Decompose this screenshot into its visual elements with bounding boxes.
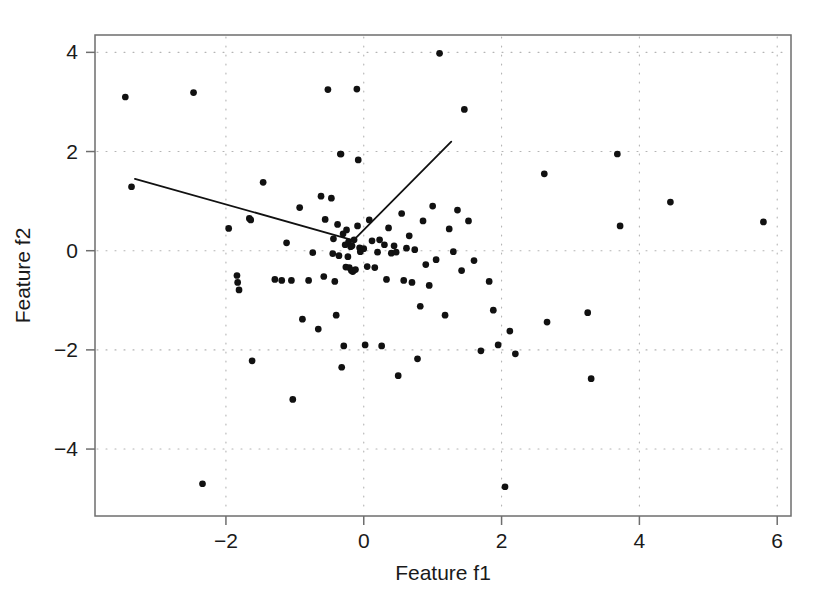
data-point [343,227,350,234]
data-point [371,264,378,271]
data-point [122,94,129,101]
data-point [330,235,337,242]
data-point [433,256,440,263]
data-point [512,350,519,357]
data-point [328,195,335,202]
data-point [442,312,449,319]
data-point [383,276,390,283]
data-point [471,257,478,264]
data-point [305,277,312,284]
data-point [461,106,468,113]
data-point [446,226,453,233]
data-point [329,250,336,257]
data-point [378,343,385,350]
scatter-plot-figure: −20246−4−2024Feature f1Feature f2 [0,0,825,608]
data-point [340,343,347,350]
data-point [478,348,485,355]
figure-background [0,0,825,608]
data-point [409,279,416,286]
data-point [331,278,338,285]
data-point [429,203,436,210]
data-point [225,225,232,232]
data-point [417,303,424,310]
data-point [450,248,457,255]
x-tick-label: 6 [771,529,783,552]
data-point [614,151,621,158]
data-point [234,272,241,279]
data-point [360,245,367,252]
data-point [289,396,296,403]
data-point [374,249,381,256]
data-point [584,309,591,316]
data-point [426,282,433,289]
data-point [322,216,329,223]
x-tick-label: 0 [358,529,370,552]
data-point [422,261,429,268]
data-point [395,372,402,379]
data-point [393,249,400,256]
data-point [403,245,410,252]
data-point [364,263,371,270]
data-point [454,207,461,214]
data-point [338,151,345,158]
x-tick-label: 4 [634,529,646,552]
data-point [247,217,254,224]
data-point [288,277,295,284]
data-point [362,342,369,349]
data-point [334,221,341,228]
data-point [541,170,548,177]
data-point [128,183,135,190]
data-point [354,223,361,230]
data-point [411,246,418,253]
data-point [199,480,206,487]
data-point [345,253,352,260]
data-point [588,375,595,382]
data-point [296,204,303,211]
data-point [414,355,421,362]
data-point [385,225,392,232]
data-point [436,50,443,57]
y-tick-label: −4 [54,437,78,460]
data-point [544,319,551,326]
y-tick-label: 0 [66,239,78,262]
data-point [260,179,267,186]
data-point [320,273,327,280]
data-point [249,357,256,364]
data-point [391,242,398,249]
data-point [352,266,359,273]
y-tick-label: 2 [66,140,78,163]
x-axis-title: Feature f1 [395,561,491,584]
data-point [336,252,343,259]
data-point [190,89,197,96]
data-point [236,287,243,294]
data-point [272,276,279,283]
data-point [354,86,361,93]
data-point [502,483,509,490]
data-point [490,307,497,314]
data-point [278,277,285,284]
data-point [506,328,513,335]
data-point [617,223,624,230]
data-point [369,237,376,244]
data-point [318,193,325,200]
data-point [325,86,332,93]
data-point [351,236,358,243]
data-point [420,218,427,225]
x-tick-label: 2 [496,529,508,552]
data-point [667,199,674,206]
data-point [381,241,388,248]
data-point [495,342,502,349]
data-point [398,210,405,217]
data-point [406,232,413,239]
y-tick-label: 4 [66,40,78,63]
data-point [355,157,362,164]
data-point [400,277,407,284]
data-point [486,278,493,285]
data-point [309,249,316,256]
data-point [315,326,322,333]
x-tick-label: −2 [214,529,238,552]
y-axis-title: Feature f2 [11,228,34,324]
plot-canvas: −20246−4−2024Feature f1Feature f2 [0,0,825,608]
data-point [458,267,465,274]
data-point [349,242,356,249]
